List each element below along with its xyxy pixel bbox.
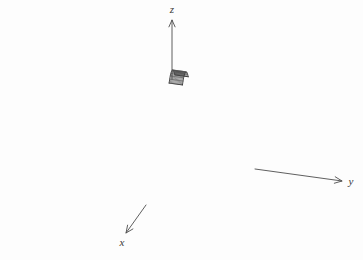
x-axis-line [126,205,146,233]
axis-labels-group: z y x [119,3,354,248]
surface-plot-svg: z y x [0,0,363,260]
z-axis-label: z [169,3,175,15]
y-axis-line [255,169,342,181]
x-axis-label: x [119,236,125,248]
y-axis-label: y [348,175,354,187]
axes-group [126,20,342,233]
figure-canvas: z y x [0,0,363,260]
